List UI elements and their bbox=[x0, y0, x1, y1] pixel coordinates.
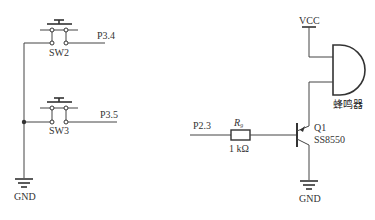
net-label-p34: P3.4 bbox=[97, 30, 115, 41]
sw2-contact bbox=[64, 28, 68, 32]
transistor-part: SS8550 bbox=[314, 134, 345, 145]
net-label-p35: P3.5 bbox=[100, 109, 118, 120]
resistor-value: 1 kΩ bbox=[229, 143, 249, 154]
buzzer-icon bbox=[333, 45, 365, 95]
sw2-contact bbox=[50, 41, 54, 45]
gnd-label-right: GND bbox=[299, 193, 321, 204]
sw2-contact bbox=[64, 41, 68, 45]
gnd-label-left: GND bbox=[14, 191, 36, 202]
sw3-contact bbox=[50, 106, 54, 110]
junction-dot bbox=[22, 120, 26, 124]
resistor-ref: R9 bbox=[233, 117, 243, 129]
vcc-label: VCC bbox=[299, 15, 320, 26]
ground-symbol-left bbox=[15, 179, 33, 187]
circuit-schematic: P3.4 SW2 P3.5 SW3 GND VCC 蜂鸣器 P2.3 bbox=[0, 0, 375, 220]
buzzer-label: 蜂鸣器 bbox=[333, 98, 363, 110]
sw3-contact bbox=[50, 120, 54, 124]
sw3-contact bbox=[64, 120, 68, 124]
resistor-icon bbox=[231, 130, 250, 140]
transistor-q1-icon bbox=[297, 123, 309, 147]
sw3-contact bbox=[64, 106, 68, 110]
ground-symbol-right bbox=[300, 181, 318, 189]
transistor-ref: Q1 bbox=[314, 122, 326, 133]
sw3-label: SW3 bbox=[49, 125, 69, 136]
switch-sw3: P3.5 SW3 bbox=[24, 98, 118, 136]
net-label-p23: P2.3 bbox=[193, 120, 211, 131]
switch-sw2: P3.4 SW2 bbox=[24, 20, 115, 58]
sw2-contact bbox=[50, 28, 54, 32]
sw2-label: SW2 bbox=[49, 47, 69, 58]
